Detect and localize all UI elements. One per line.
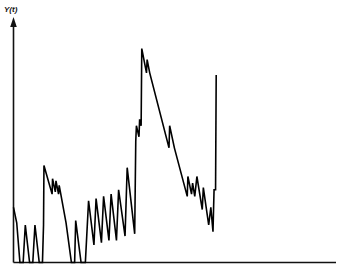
chart-plot-area	[0, 0, 338, 278]
y-axis	[10, 17, 17, 263]
y-axis-arrowhead	[10, 17, 17, 27]
chart-figure: Y(t)	[0, 0, 338, 278]
series-line-y-of-t	[14, 49, 217, 263]
